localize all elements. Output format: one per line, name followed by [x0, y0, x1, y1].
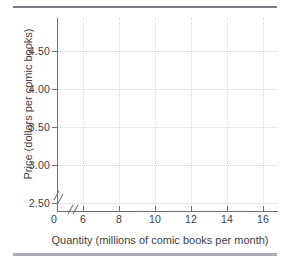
gridline-horizontal-3-50	[57, 127, 277, 128]
gridline-horizontal-4-50	[57, 51, 277, 52]
x-axis-break-icon	[68, 203, 84, 219]
x-axis-tick-16	[263, 206, 264, 212]
x-axis-ticklabel-14: 14	[217, 213, 237, 225]
x-axis-ticklabel-16: 16	[253, 213, 273, 225]
x-axis-title: Quantity (millions of comic books per mo…	[40, 234, 280, 246]
x-axis-ticklabel-10: 10	[145, 213, 165, 225]
y-axis-break-icon	[52, 190, 64, 208]
gridline-vertical-16	[263, 18, 264, 212]
x-axis-tick-12	[191, 206, 192, 212]
x-axis-tick-10	[155, 206, 156, 212]
y-axis-tick-4-00	[52, 89, 58, 90]
bottom-divider-rule	[13, 253, 277, 256]
gridline-horizontal-4-00	[57, 89, 277, 90]
x-axis-tick-8	[119, 206, 120, 212]
gridline-vertical-12	[191, 18, 192, 212]
gridline-horizontal-2-50	[57, 203, 277, 204]
x-axis-ticklabel-12: 12	[181, 213, 201, 225]
x-axis-ticklabel-8: 8	[109, 213, 129, 225]
y-axis-ticklabel-2-50: 2.50	[18, 197, 50, 209]
gridline-vertical-10	[155, 18, 156, 212]
x-axis-ticklabel-0: 0	[44, 213, 64, 225]
x-axis-tick-14	[227, 206, 228, 212]
y-axis-tick-3-50	[52, 127, 58, 128]
y-axis-line	[57, 18, 58, 212]
gridline-vertical-14	[227, 18, 228, 212]
gridline-vertical-6	[83, 18, 84, 212]
y-axis-tick-4-50	[52, 51, 58, 52]
graph-figure: 4.50 4.00 3.50 3.00 2.50 0 6 8 10 12 14 …	[0, 0, 288, 262]
y-axis-tick-3-00	[52, 165, 58, 166]
gridline-vertical-8	[119, 18, 120, 212]
y-axis-title: Price (dollars per comic books)	[22, 14, 34, 194]
top-divider-rule	[13, 6, 277, 8]
plot-area	[57, 18, 277, 212]
gridline-horizontal-3-00	[57, 165, 277, 166]
x-axis-line	[57, 211, 278, 212]
